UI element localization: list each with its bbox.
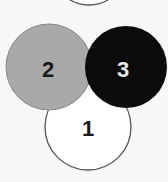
circle-2-label: 2 <box>42 57 54 82</box>
circle-3-label: 3 <box>117 57 129 82</box>
circle-diagram: 1 2 3 <box>0 0 168 182</box>
circle-1-label: 1 <box>82 116 94 141</box>
partial-top-circle <box>52 0 126 5</box>
